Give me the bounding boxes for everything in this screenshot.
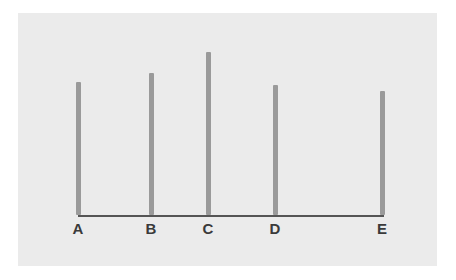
tick-label-c: C xyxy=(202,221,213,237)
bar-b xyxy=(149,73,154,215)
plot-area: ABCDE xyxy=(18,13,437,266)
figure-panel: ABCDE xyxy=(18,13,437,266)
tick-label-e: E xyxy=(377,221,387,237)
tick-label-a: A xyxy=(72,221,83,237)
x-axis-line xyxy=(78,215,384,217)
chart-canvas: ABCDE xyxy=(0,0,456,280)
tick-label-b: B xyxy=(145,221,156,237)
bar-d xyxy=(273,85,278,215)
bar-e xyxy=(380,91,385,215)
bar-c xyxy=(206,52,211,215)
bar-a xyxy=(76,82,81,215)
tick-label-d: D xyxy=(269,221,280,237)
